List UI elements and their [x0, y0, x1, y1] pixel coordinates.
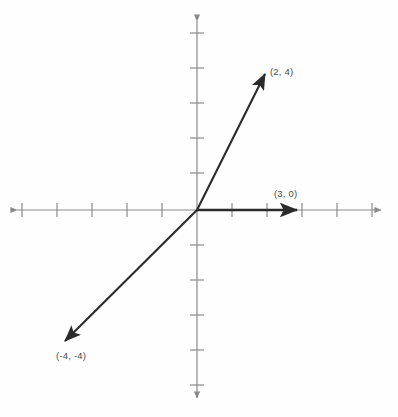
vector-c-label: (-4, -4): [56, 350, 86, 361]
vector-c-arrow: [65, 210, 197, 341]
coordinate-plane-figure: (2, 4) (3, 0) (-4, -4): [0, 0, 398, 417]
vector-b-label: (3, 0): [274, 188, 297, 199]
vector-a-arrow: [197, 74, 265, 210]
vectors: [65, 74, 297, 341]
vector-a-label: (2, 4): [270, 66, 293, 77]
